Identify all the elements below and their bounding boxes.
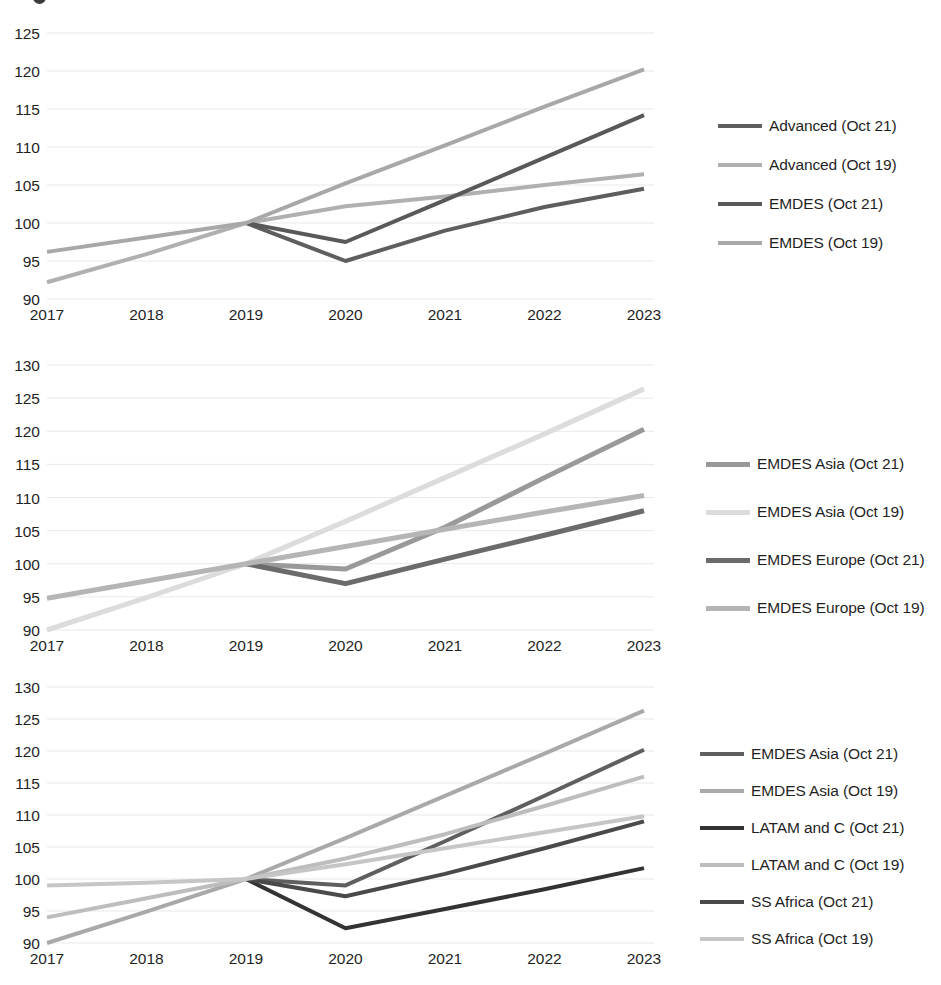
y-axis-tick-label: 100 <box>14 557 40 573</box>
series-line <box>246 511 644 584</box>
x-axis-tick-label: 2023 <box>604 951 684 967</box>
line-chart-svg-3 <box>0 665 700 985</box>
legend-item-label: EMDES Asia (Oct 21) <box>757 456 904 472</box>
legend-swatch-icon <box>700 752 744 756</box>
legend-item-label: EMDES Asia (Oct 19) <box>751 783 898 799</box>
x-axis-tick-label: 2019 <box>206 307 286 323</box>
legend-item-label: Advanced (Oct 21) <box>769 118 897 134</box>
legend-swatch-icon <box>706 606 750 611</box>
x-axis-tick-label: 2021 <box>405 307 485 323</box>
y-axis-tick-label: 95 <box>23 254 40 270</box>
series-line <box>47 174 644 282</box>
legend-swatch-icon <box>718 124 762 128</box>
legend-item[interactable]: Advanced (Oct 21) <box>718 106 897 145</box>
series-line <box>47 69 644 251</box>
y-axis-tick-label: 120 <box>14 424 40 440</box>
x-axis-tick-label: 2019 <box>206 638 286 654</box>
legend-swatch-icon <box>718 241 762 245</box>
y-axis-tick-label: 100 <box>14 872 40 888</box>
legend-swatch-icon <box>700 826 744 830</box>
y-axis-tick-label: 105 <box>14 524 40 540</box>
legend-item[interactable]: EMDES Europe (Oct 19) <box>706 584 925 632</box>
legend-item-label: EMDES Asia (Oct 21) <box>751 746 898 762</box>
legend-item[interactable]: Advanced (Oct 19) <box>718 145 897 184</box>
x-axis-tick-label: 2019 <box>206 951 286 967</box>
legend-item[interactable]: EMDES Europe (Oct 21) <box>706 536 925 584</box>
x-axis-tick-label: 2017 <box>7 638 87 654</box>
plot-area-3 <box>0 665 700 985</box>
legend-swatch-icon <box>718 202 762 206</box>
x-axis-tick-label: 2022 <box>505 951 585 967</box>
legend-item[interactable]: EMDES Asia (Oct 19) <box>706 488 925 536</box>
legend-item[interactable]: LATAM and C (Oct 21) <box>700 809 904 846</box>
x-axis-tick-label: 2020 <box>306 951 386 967</box>
y-axis-tick-label: 115 <box>15 102 40 118</box>
x-axis-tick-label: 2021 <box>405 951 485 967</box>
legend-item-label: EMDES Asia (Oct 19) <box>757 504 904 520</box>
legend-swatch-icon <box>706 462 750 467</box>
y-axis-tick-label: 125 <box>14 712 40 728</box>
y-axis-tick-label: 115 <box>15 776 40 792</box>
y-axis-tick-label: 110 <box>15 140 40 156</box>
series-line <box>246 868 644 928</box>
legend-swatch-icon <box>706 558 750 563</box>
legend-item[interactable]: EMDES Asia (Oct 21) <box>706 440 925 488</box>
x-axis-tick-label: 2022 <box>505 307 585 323</box>
legend-item[interactable]: SS Africa (Oct 21) <box>700 883 904 920</box>
y-axis-tick-label: 95 <box>23 590 40 606</box>
y-axis-tick-label: 120 <box>14 64 40 80</box>
legend-item-label: EMDES Europe (Oct 19) <box>757 600 925 616</box>
legend-3: EMDES Asia (Oct 21)EMDES Asia (Oct 19)LA… <box>700 735 904 957</box>
y-axis-tick-label: 100 <box>14 216 40 232</box>
legend-item-label: EMDES Europe (Oct 21) <box>757 552 925 568</box>
x-axis-tick-label: 2018 <box>107 307 187 323</box>
legend-swatch-icon <box>700 863 744 867</box>
y-axis-tick-label: 95 <box>23 904 40 920</box>
y-axis-tick-label: 110 <box>15 808 40 824</box>
legend-item[interactable]: EMDES (Oct 21) <box>718 184 897 223</box>
legend-item[interactable]: LATAM and C (Oct 19) <box>700 846 904 883</box>
legend-swatch-icon <box>700 900 744 904</box>
y-axis-tick-label: 125 <box>14 26 40 42</box>
x-axis-tick-label: 2022 <box>505 638 585 654</box>
legend-item[interactable]: EMDES (Oct 19) <box>718 223 897 262</box>
legend-item-label: LATAM and C (Oct 19) <box>751 857 904 873</box>
chart-panel-emdes-regions: EMDES Asia (Oct 21)EMDES Asia (Oct 19)LA… <box>0 665 941 985</box>
x-axis-tick-label: 2017 <box>7 951 87 967</box>
x-axis-tick-label: 2023 <box>604 307 684 323</box>
legend-item-label: Advanced (Oct 19) <box>769 157 897 173</box>
series-line <box>47 816 644 885</box>
chart-panel-emdes-asia-europe: EMDES Asia (Oct 21)EMDES Asia (Oct 19)EM… <box>0 340 941 665</box>
y-axis-tick-label: 130 <box>14 358 40 374</box>
y-axis-tick-label: 125 <box>14 391 40 407</box>
series-line <box>246 429 644 569</box>
line-chart-svg-2 <box>0 340 700 665</box>
y-axis-tick-label: 120 <box>14 744 40 760</box>
chart-page: Advanced (Oct 21)Advanced (Oct 19)EMDES … <box>0 0 941 985</box>
legend-item[interactable]: EMDES Asia (Oct 19) <box>700 772 904 809</box>
x-axis-tick-label: 2018 <box>107 638 187 654</box>
legend-swatch-icon <box>700 789 744 793</box>
legend-1: Advanced (Oct 21)Advanced (Oct 19)EMDES … <box>718 106 897 262</box>
plot-area-2 <box>0 340 700 665</box>
legend-item[interactable]: EMDES Asia (Oct 21) <box>700 735 904 772</box>
x-axis-tick-label: 2023 <box>604 638 684 654</box>
legend-swatch-icon <box>700 937 744 941</box>
y-axis-tick-label: 105 <box>14 840 40 856</box>
legend-item[interactable]: SS Africa (Oct 19) <box>700 920 904 957</box>
line-chart-svg-1 <box>0 0 700 340</box>
y-axis-tick-label: 110 <box>15 491 40 507</box>
y-axis-tick-label: 130 <box>14 680 40 696</box>
chart-panel-advanced-emdes: Advanced (Oct 21)Advanced (Oct 19)EMDES … <box>0 0 941 340</box>
legend-2: EMDES Asia (Oct 21)EMDES Asia (Oct 19)EM… <box>706 440 925 632</box>
legend-item-label: SS Africa (Oct 21) <box>751 894 873 910</box>
x-axis-tick-label: 2018 <box>107 951 187 967</box>
y-axis-tick-label: 105 <box>14 178 40 194</box>
legend-item-label: LATAM and C (Oct 21) <box>751 820 904 836</box>
legend-item-label: EMDES (Oct 19) <box>769 235 883 251</box>
legend-item-label: SS Africa (Oct 19) <box>751 931 873 947</box>
x-axis-tick-label: 2017 <box>7 307 87 323</box>
y-axis-tick-label: 115 <box>15 457 40 473</box>
plot-area-1 <box>0 0 700 340</box>
series-line <box>47 711 644 943</box>
